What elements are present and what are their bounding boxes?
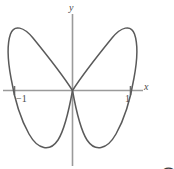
x-tick-label-pos-one: 1 xyxy=(125,94,130,104)
curve-right-lobe xyxy=(73,28,137,148)
mathematica-plot-figure: y x −1 1 (Generated by Mathematica) xyxy=(0,0,174,169)
x-tick-label-neg-one: −1 xyxy=(16,94,27,104)
x-axis-label: x xyxy=(144,82,148,92)
curve-left-lobe xyxy=(8,28,72,148)
y-axis-label: y xyxy=(69,3,73,13)
attribution-text: (Generated by Mathematica) xyxy=(161,167,174,169)
